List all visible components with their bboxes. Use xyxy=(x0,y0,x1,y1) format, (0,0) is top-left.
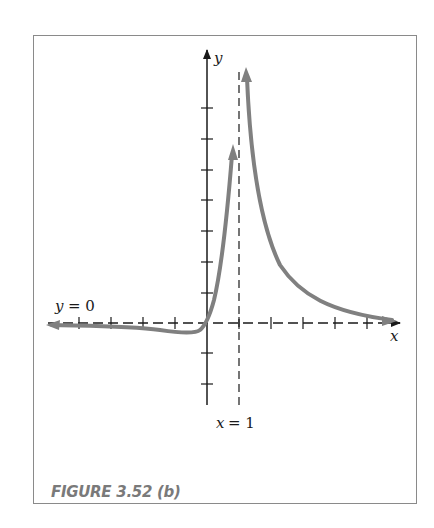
horizontal-asymptote-label: y = 0 xyxy=(54,297,95,315)
curve-right-arrow-up xyxy=(241,67,252,82)
figure-caption: FIGURE 3.52 (b) xyxy=(51,483,181,501)
y-axis xyxy=(201,50,213,405)
y-axis-label: y xyxy=(213,49,223,67)
svg-text:y: y xyxy=(54,297,64,315)
x-axis-label: x xyxy=(390,327,399,345)
svg-text:= 0: = 0 xyxy=(68,297,95,315)
svg-text:x: x xyxy=(216,414,225,432)
curve-left-arrow-up xyxy=(228,144,238,160)
svg-text:= 1: = 1 xyxy=(228,414,255,432)
vertical-asymptote-label: x = 1 xyxy=(216,414,255,432)
curve-right-arrow-right xyxy=(382,316,397,326)
curve-left-arrow-left xyxy=(46,320,60,330)
graph: y x y = 0 x = 1 xyxy=(0,0,434,528)
curve-right-branch xyxy=(247,78,392,320)
